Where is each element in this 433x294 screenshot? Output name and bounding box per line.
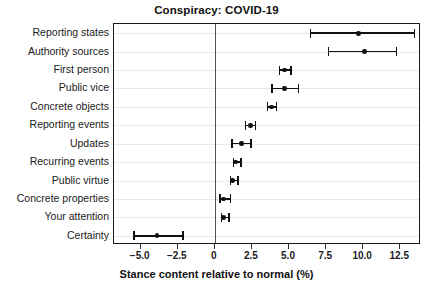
- x-tick-label: −5.0: [130, 250, 150, 261]
- ci-cap-lower: [271, 84, 273, 93]
- ci-cap-upper: [396, 47, 398, 56]
- x-tick-label: 2.5: [244, 250, 258, 261]
- y-axis-label: Concrete objects: [0, 100, 109, 112]
- y-axis-label: Recurring events: [0, 155, 109, 167]
- y-axis-label: Reporting states: [0, 26, 109, 38]
- y-axis-labels: Reporting statesAuthority sourcesFirst p…: [0, 23, 109, 244]
- data-rows: [114, 24, 419, 243]
- y-axis-label: Updates: [0, 137, 109, 149]
- data-point-marker: [282, 86, 287, 91]
- data-point-marker: [248, 123, 253, 128]
- data-point-marker: [230, 178, 235, 183]
- y-axis-label: Your attention: [0, 210, 109, 222]
- ci-cap-upper: [276, 102, 278, 111]
- x-axis-tick-labels: −5.0−2.502.55.07.510.012.5: [113, 250, 420, 264]
- x-tick: [140, 244, 141, 249]
- ci-cap-upper: [237, 176, 239, 185]
- ci-cap-upper: [298, 84, 300, 93]
- x-tick: [214, 244, 215, 249]
- ci-cap-lower: [133, 231, 135, 240]
- ci-cap-lower: [245, 121, 247, 130]
- x-tick: [325, 244, 326, 249]
- x-tick-label: 5.0: [281, 250, 295, 261]
- data-point-marker: [155, 233, 160, 238]
- x-tick: [288, 244, 289, 249]
- ci-cap-upper: [250, 139, 252, 148]
- data-point-marker: [282, 68, 287, 73]
- ci-cap-lower: [328, 47, 330, 56]
- data-point-marker: [221, 215, 226, 220]
- ci-cap-upper: [240, 158, 242, 167]
- data-point-marker: [239, 141, 244, 146]
- ci-cap-lower: [310, 29, 312, 38]
- data-point-marker: [233, 160, 238, 165]
- data-point-marker: [362, 49, 367, 54]
- x-tick-label: 10.0: [352, 250, 371, 261]
- ci-cap-upper: [182, 231, 184, 240]
- ci-cap-upper: [414, 29, 416, 38]
- y-axis-label: Public virtue: [0, 174, 109, 186]
- y-axis-label: Concrete properties: [0, 192, 109, 204]
- x-tick-label: −2.5: [167, 250, 187, 261]
- data-point-marker: [356, 31, 361, 36]
- y-axis-label: Reporting events: [0, 118, 109, 130]
- y-axis-label: Authority sources: [0, 45, 109, 57]
- confidence-interval-bar: [310, 32, 414, 34]
- y-axis-label: Public vice: [0, 81, 109, 93]
- forest-plot-figure: Conspiracy: COVID-19 Reporting statesAut…: [0, 0, 433, 294]
- plot-area: [113, 23, 420, 244]
- y-axis-label: Certainty: [0, 229, 109, 241]
- x-tick-label: 0: [211, 250, 217, 261]
- ci-cap-upper: [228, 213, 230, 222]
- data-point-marker: [269, 105, 274, 110]
- chart-title: Conspiracy: COVID-19: [0, 4, 433, 16]
- x-axis-title: Stance content relative to normal (%): [0, 268, 433, 280]
- x-tick: [177, 244, 178, 249]
- ci-cap-upper: [290, 66, 292, 75]
- x-tick-label: 12.5: [390, 250, 409, 261]
- x-tick-label: 7.5: [318, 250, 332, 261]
- y-axis-label: First person: [0, 63, 109, 75]
- ci-cap-lower: [231, 139, 233, 148]
- x-tick: [399, 244, 400, 249]
- ci-cap-upper: [230, 194, 232, 203]
- data-point-marker: [221, 197, 226, 202]
- ci-cap-upper: [255, 121, 257, 130]
- x-tick: [251, 244, 252, 249]
- ci-cap-lower: [279, 66, 281, 75]
- x-tick: [362, 244, 363, 249]
